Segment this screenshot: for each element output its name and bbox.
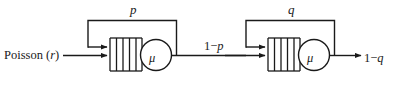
departure-label-one-minus-q: 1−q — [364, 52, 384, 65]
departure-label-var: q — [377, 51, 383, 65]
departure-label-prefix: 1− — [364, 51, 377, 65]
source-label-suffix: ) — [55, 48, 59, 62]
source-label: Poisson (r) — [4, 49, 59, 62]
server-2-rate-label: μ — [307, 52, 313, 65]
feedback-label-p: p — [130, 3, 137, 16]
server-2 — [299, 40, 330, 71]
feedback-label-q: q — [288, 3, 295, 16]
stage-2-group — [225, 21, 361, 72]
link-label-one-minus-p: 1−p — [204, 40, 224, 53]
queue-2 — [268, 38, 300, 71]
source-label-prefix: Poisson ( — [4, 48, 50, 62]
queueing-network-diagram: Poisson (r) p q 1−p 1−q μ μ — [0, 0, 398, 87]
link-label-prefix: 1− — [204, 39, 217, 53]
diagram-canvas — [0, 0, 398, 87]
link-label-var: p — [217, 39, 223, 53]
queue-1 — [110, 38, 142, 71]
server-1 — [141, 40, 172, 71]
server-1-rate-label: μ — [149, 52, 155, 65]
